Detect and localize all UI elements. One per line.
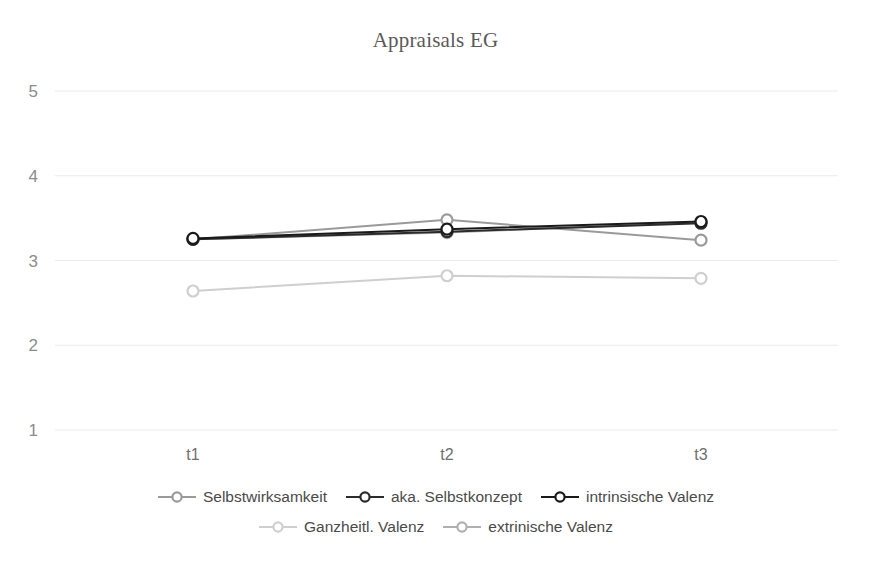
chart-legend: Selbstwirksamkeitaka. Selbstkonzeptintri… [0,482,871,542]
legend-item-label: Ganzheitl. Valenz [304,518,424,536]
y-tick-label: 4 [29,167,38,186]
legend-item-label: extrinische Valenz [488,518,613,536]
legend-item-label: intrinsische Valenz [586,488,714,506]
data-point-marker [696,235,707,246]
y-tick-label: 2 [29,336,38,355]
x-axis-tick-labels: t1t2t3 [186,446,707,463]
legend-item[interactable]: Ganzheitl. Valenz [258,518,424,536]
data-point-marker [188,286,199,297]
legend-row-secondary: Ganzheitl. Valenzextrinische Valenz [0,512,871,542]
chart-container: Appraisals EG 12345 t1t2t3 Selbstwirksam… [0,0,871,570]
y-axis-tick-labels: 12345 [29,82,38,440]
x-tick-label: t1 [186,446,199,463]
data-series [188,270,707,296]
legend-marker-icon [540,489,580,505]
legend-item[interactable]: extrinische Valenz [442,518,613,536]
legend-item[interactable]: aka. Selbstkonzept [345,488,522,506]
y-tick-label: 1 [29,421,38,440]
y-tick-label: 5 [29,82,38,101]
legend-marker-icon [258,519,298,535]
x-tick-label: t3 [694,446,707,463]
y-tick-label: 3 [29,252,38,271]
line-chart-plot: 12345 t1t2t3 [0,0,871,482]
x-tick-label: t2 [440,446,453,463]
legend-marker-icon [345,489,385,505]
data-point-marker [696,216,707,227]
gridlines-group [55,91,838,430]
legend-marker-icon [157,489,197,505]
data-point-marker [442,270,453,281]
data-point-marker [442,224,453,235]
data-series-group [188,214,707,296]
legend-marker-icon [442,519,482,535]
legend-item[interactable]: Selbstwirksamkeit [157,488,327,506]
data-point-marker [696,273,707,284]
legend-item[interactable]: intrinsische Valenz [540,488,714,506]
legend-item-label: Selbstwirksamkeit [203,488,327,506]
data-point-marker [188,233,199,244]
legend-row-primary: Selbstwirksamkeitaka. Selbstkonzeptintri… [0,482,871,512]
legend-item-label: aka. Selbstkonzept [391,488,522,506]
